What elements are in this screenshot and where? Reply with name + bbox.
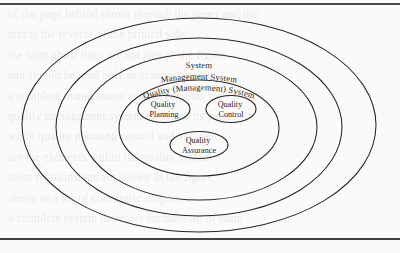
ring-label-system-text: System: [185, 60, 212, 70]
ring-label-quality-management-system-text: Quality (Management) System: [142, 82, 257, 100]
node-label-line: Assurance: [182, 146, 217, 155]
node-label-line: Quality: [186, 136, 212, 145]
scanned-figure-page: of the page behind shows through the pap…: [0, 0, 400, 253]
node-label-quality-assurance: Quality Assurance: [182, 136, 217, 155]
node-label-quality-planning: Quality Planning: [149, 100, 178, 119]
ring-label-system: System: [185, 60, 212, 70]
nested-system-diagram: System Management System Quality (Manage…: [0, 0, 400, 253]
node-label-line: Quality: [151, 100, 177, 109]
page-rule-bottom: [0, 238, 400, 240]
node-label-line: Quality: [218, 100, 244, 109]
ring-label-quality-management-system: Quality (Management) System: [142, 82, 257, 100]
node-label-quality-control: Quality Control: [218, 100, 245, 119]
node-label-line: Planning: [149, 110, 178, 119]
node-label-line: Control: [218, 110, 244, 119]
